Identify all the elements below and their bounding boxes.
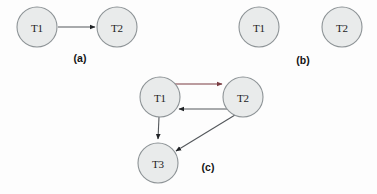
panel-caption-a: (a) (74, 52, 87, 64)
node-b-t2: T2 (322, 7, 362, 47)
node-a-t1: T1 (17, 7, 57, 47)
node-label: T2 (111, 22, 123, 34)
edge-c-t1-to-t3 (158, 117, 159, 139)
panel-c: T1 T2 T3 (c) (138, 77, 263, 183)
panel-caption-c: (c) (202, 161, 215, 173)
node-label: T2 (237, 92, 249, 104)
node-c-t3: T3 (138, 143, 178, 183)
node-b-t1: T1 (239, 7, 279, 47)
node-label: T1 (253, 22, 265, 34)
panel-a: T1 T2 (a) (17, 7, 137, 64)
precedence-graph-figure: T1 T2 (a) T1 T2 (b) (0, 0, 377, 194)
node-c-t1: T1 (140, 77, 180, 117)
panel-b: T1 T2 (b) (239, 7, 362, 66)
node-label: T1 (31, 22, 43, 34)
edge-c-t2-to-t3 (176, 115, 235, 151)
node-label: T3 (152, 158, 165, 170)
panel-caption-b: (b) (296, 54, 309, 66)
node-label: T1 (154, 92, 166, 104)
node-label: T2 (336, 22, 348, 34)
node-a-t2: T2 (97, 7, 137, 47)
node-c-t2: T2 (223, 77, 263, 117)
